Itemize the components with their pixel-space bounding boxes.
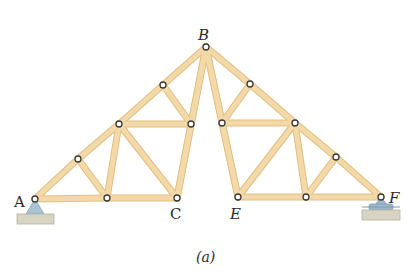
joint-E <box>235 194 241 200</box>
figure-caption: (a) <box>196 249 215 265</box>
member-R5-R4 <box>306 157 336 197</box>
member-A-L5 <box>35 198 107 199</box>
member-L2-L3 <box>119 85 163 124</box>
label-B: B <box>197 26 209 44</box>
truss-members <box>35 47 381 199</box>
joint-L1 <box>75 156 81 162</box>
member-R3-E <box>238 123 295 197</box>
joint-L3 <box>160 82 166 88</box>
truss-diagram: A B C E F (a) <box>0 0 419 277</box>
joint-R3 <box>292 120 298 126</box>
member-R1-R2 <box>222 84 250 123</box>
member-L2-C <box>119 124 177 198</box>
joint-L2 <box>116 121 122 127</box>
joint-L4 <box>188 121 194 127</box>
joint-F <box>378 194 384 200</box>
label-F: F <box>388 189 400 207</box>
joint-B <box>203 44 209 50</box>
member-A-L1 <box>35 159 78 199</box>
joint-L5 <box>104 195 110 201</box>
joint-C <box>174 195 180 201</box>
joint-R4 <box>333 154 339 160</box>
member-L1-L5 <box>78 159 107 198</box>
member-L3-L4 <box>163 85 191 124</box>
label-E: E <box>229 205 241 223</box>
member-R1-R3 <box>250 84 295 123</box>
joint-A <box>32 196 38 202</box>
label-A: A <box>13 193 25 211</box>
label-C: C <box>170 205 181 223</box>
joint-R2 <box>219 120 225 126</box>
joint-R1 <box>247 81 253 87</box>
member-R4-F <box>336 157 381 197</box>
joint-R5 <box>303 194 309 200</box>
